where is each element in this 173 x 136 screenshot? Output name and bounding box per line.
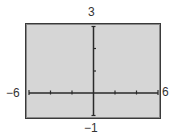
plot-axes (0, 0, 173, 136)
xmax-label: 6 (162, 86, 169, 98)
xmin-label: −6 (6, 87, 20, 99)
ymin-label: −1 (84, 122, 98, 134)
ymax-label: 3 (88, 6, 95, 18)
